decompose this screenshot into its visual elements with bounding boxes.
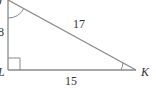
vertex-label-k: K [140,65,150,79]
side-label-jk: 17 [73,17,85,31]
side-label-jl: 8 [0,25,4,39]
angle-arc-k [121,63,123,70]
right-angle-marker [8,58,20,70]
side-label-lk: 15 [65,74,77,88]
triangle-diagram: J L K 8 15 17 [0,0,156,89]
vertex-label-l: L [0,65,5,79]
side-jk [8,0,136,70]
vertex-label-j: J [0,0,3,8]
angle-arc-j [8,9,24,18]
